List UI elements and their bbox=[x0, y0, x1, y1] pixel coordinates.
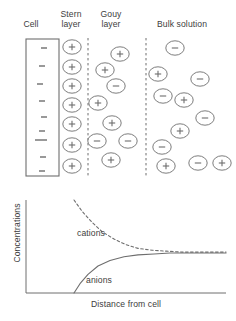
ion-cation-stern bbox=[63, 40, 81, 54]
ion-cation-stern bbox=[63, 117, 81, 131]
curve-label-cations: cations bbox=[77, 228, 105, 238]
figure-root: Cell Stern layer Gouy layer Bulk solutio… bbox=[0, 0, 236, 321]
curve-label-anions: anions bbox=[86, 275, 112, 285]
cell-negative-charges bbox=[35, 48, 47, 171]
ion-cation-stern bbox=[63, 60, 81, 74]
ion-anion-gouy bbox=[107, 79, 125, 93]
curve-anions bbox=[74, 253, 226, 293]
ion-cation-gouy bbox=[111, 47, 129, 61]
ion-anion-bulk bbox=[196, 111, 214, 125]
ion-anion-bulk bbox=[154, 89, 172, 103]
diagram-canvas bbox=[0, 0, 236, 321]
ion-cation-bulk bbox=[149, 67, 167, 81]
ion-cation-stern bbox=[63, 138, 81, 152]
ion-cation-bulk bbox=[175, 93, 193, 107]
ion-anion-bulk bbox=[153, 140, 171, 154]
ion-anion-bulk bbox=[189, 156, 207, 170]
ion-cation-gouy bbox=[89, 96, 107, 110]
cell-box bbox=[26, 39, 59, 176]
ion-cation-stern bbox=[63, 98, 81, 112]
ion-cation-bulk bbox=[157, 159, 175, 173]
y-axis-label: Concentrations bbox=[12, 188, 22, 278]
x-axis-label: Distance from cell bbox=[26, 299, 226, 309]
ion-cation-stern bbox=[63, 79, 81, 93]
ion-anion-gouy bbox=[88, 134, 106, 148]
ion-cation-gouy bbox=[96, 63, 114, 77]
chart-axes bbox=[26, 200, 226, 293]
ion-cation-bulk bbox=[171, 124, 189, 138]
ion-cation-stern bbox=[63, 159, 81, 173]
curve-cations bbox=[74, 200, 226, 252]
ion-cation-gouy bbox=[103, 116, 121, 130]
ion-cation-bulk bbox=[213, 156, 231, 170]
ion-anion-gouy bbox=[119, 134, 137, 148]
ion-cation-gouy bbox=[102, 153, 120, 167]
cell-rectangle bbox=[26, 39, 59, 176]
ion-anion-bulk bbox=[166, 41, 184, 55]
ion-anion-bulk bbox=[191, 72, 209, 86]
